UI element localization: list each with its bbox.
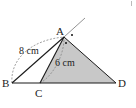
label-d: D <box>118 77 126 89</box>
angle-mark-outer <box>71 34 73 36</box>
corner-mark <box>131 1 132 6</box>
ray-extension <box>64 18 85 37</box>
label-ac-length: 6 cm <box>55 57 75 68</box>
label-c: C <box>35 87 42 99</box>
label-b: B <box>2 77 9 89</box>
label-a: A <box>56 25 64 37</box>
angle-mark-inner <box>65 42 67 44</box>
geometry-diagram: A B C D 8 cm 6 cm <box>0 0 136 108</box>
label-ab-length: 8 cm <box>19 45 39 56</box>
